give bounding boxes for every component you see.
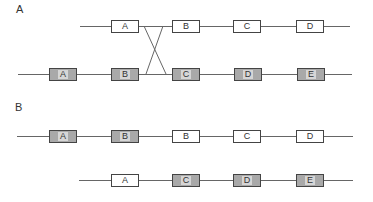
segment-label: D — [305, 132, 316, 141]
segment-label: A — [120, 176, 130, 185]
segment-label: B — [120, 132, 130, 141]
segment-label: C — [242, 132, 253, 141]
segment-box: C — [233, 130, 261, 143]
crossover-lines — [0, 0, 373, 202]
segment-label: A — [58, 132, 68, 141]
segment-box: A — [111, 174, 139, 187]
segment-box-shaded: C — [172, 174, 200, 187]
segment-box-shaded: E — [296, 174, 324, 187]
segment-box-shaded: D — [233, 174, 261, 187]
segment-label: B — [181, 132, 191, 141]
segment-label: E — [305, 176, 315, 185]
segment-box-shaded: B — [111, 130, 139, 143]
segment-label: C — [181, 176, 192, 185]
segment-box: D — [296, 130, 324, 143]
segment-box-shaded: A — [49, 130, 77, 143]
segment-box: B — [172, 130, 200, 143]
segment-label: D — [242, 176, 253, 185]
